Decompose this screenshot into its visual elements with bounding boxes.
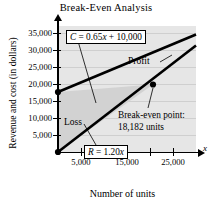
x-tick xyxy=(150,148,151,156)
y-tick-label: 5,000 xyxy=(12,130,52,140)
profit-label: Profit xyxy=(128,56,150,66)
y-tick xyxy=(53,67,61,68)
revenue-equation-box: R = 1.20x xyxy=(84,145,128,159)
y-tick xyxy=(53,135,61,136)
break-even-point-line2: 18,182 units xyxy=(118,122,185,134)
revenue-equation-body: = 1.20 xyxy=(94,147,120,157)
x-axis-label: Number of units xyxy=(40,188,205,199)
break-even-point-label: Break-even point: 18,182 units xyxy=(118,110,185,133)
revenue-equation-x: x xyxy=(120,147,124,157)
break-even-leader-line xyxy=(148,88,153,108)
break-even-point-line1: Break-even point: xyxy=(118,110,185,122)
x-tick xyxy=(173,148,174,156)
y-axis-arrow-icon xyxy=(54,14,62,21)
break-even-chart-figure: Break-Even Analysis Revenue and cost (in… xyxy=(0,0,212,212)
cost-equation-tail: + 10,000 xyxy=(107,32,142,42)
cost-equation-body: = 0.65 xyxy=(76,32,102,42)
loss-label: Loss xyxy=(64,117,82,127)
y-tick xyxy=(53,118,61,119)
y-tick-label: 35,000 xyxy=(12,28,52,38)
y-tick xyxy=(53,33,61,34)
y-tick-label: 25,000 xyxy=(12,62,52,72)
y-tick xyxy=(53,84,61,85)
y-tick-label: 30,000 xyxy=(12,45,52,55)
y-tick xyxy=(53,50,61,51)
x-tick-label: 25,000 xyxy=(150,157,196,167)
y-tick-label: 15,000 xyxy=(12,96,52,106)
break-even-point-marker xyxy=(150,81,156,87)
y-tick xyxy=(53,101,61,102)
y-tick-label: 20,000 xyxy=(12,79,52,89)
x-tick xyxy=(81,148,82,156)
y-axis xyxy=(57,20,59,152)
y-tick-label: 10,000 xyxy=(12,113,52,123)
x-axis-variable-label: x xyxy=(203,143,207,153)
profit-leader-line xyxy=(160,55,172,62)
cost-equation-box: C = 0.65x + 10,000 xyxy=(66,30,146,44)
